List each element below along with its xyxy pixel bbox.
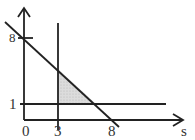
- feasible-region-diagram: [0, 0, 195, 140]
- line-s-plus-y-equals-8: [5, 22, 119, 127]
- origin-label: 0: [22, 124, 30, 139]
- shaded-region: [58, 69, 96, 104]
- x-tick-label-3: 3: [54, 124, 62, 139]
- x-tick-label-8: 8: [108, 124, 116, 139]
- x-axis-label: s: [181, 124, 187, 139]
- y-tick-label-8: 8: [9, 31, 16, 44]
- y-tick-label-1: 1: [9, 97, 17, 112]
